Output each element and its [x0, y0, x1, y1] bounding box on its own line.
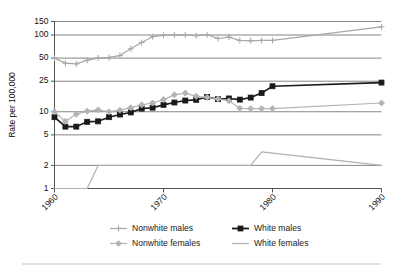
- data-point-marker: [96, 119, 101, 124]
- legend-label: Nonwhite males: [132, 223, 193, 233]
- data-point-marker: [52, 115, 57, 120]
- legend-label: Nonwhite females: [132, 238, 200, 248]
- y-tick-label: 1: [44, 183, 49, 193]
- y-tick-label: 10: [39, 106, 49, 116]
- data-point-marker: [259, 91, 264, 96]
- data-point-marker: [379, 80, 384, 85]
- y-tick-label: 150: [34, 16, 48, 26]
- y-tick-label: 50: [39, 52, 49, 62]
- data-point-marker: [107, 115, 112, 120]
- chart-background: [0, 0, 403, 273]
- chart-svg: 150100502510521 1960197019801990 Rate pe…: [0, 0, 403, 273]
- data-point-marker: [74, 124, 79, 129]
- chart-figure: 150100502510521 1960197019801990 Rate pe…: [0, 0, 403, 273]
- legend-label: White females: [254, 238, 308, 248]
- y-tick-label: 25: [39, 75, 49, 85]
- y-axis-label: Rate per 100,000: [7, 72, 17, 138]
- data-point-marker: [85, 119, 90, 124]
- data-point-marker: [237, 97, 242, 102]
- data-point-marker: [172, 100, 177, 105]
- data-point-marker: [248, 95, 253, 100]
- y-tick-label: 2: [44, 160, 49, 170]
- y-tick-label: 5: [44, 129, 49, 139]
- data-point-marker: [270, 84, 275, 89]
- legend-label: White males: [254, 223, 301, 233]
- data-point-marker: [183, 98, 188, 103]
- y-tick-label: 100: [34, 29, 48, 39]
